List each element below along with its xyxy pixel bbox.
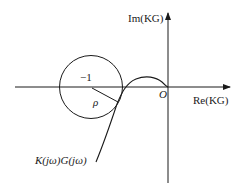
origin-label: O — [159, 88, 167, 100]
nyquist-diagram: Im(KG) Re(KG) O −1 ρ K(jω)G(jω) — [0, 0, 240, 192]
curve-label: K(jω)G(jω) — [34, 154, 87, 167]
critical-point-label: −1 — [80, 71, 92, 83]
y-axis-label: Im(KG) — [128, 12, 164, 25]
nyquist-curve — [96, 77, 168, 162]
x-axis-label: Re(KG) — [193, 94, 229, 107]
radius-label: ρ — [92, 96, 98, 108]
